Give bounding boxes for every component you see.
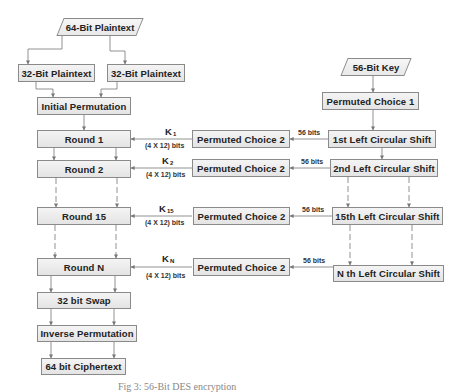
permuted-choice-2-2: Permuted Choice 2 [192,159,290,177]
left-circular-shift-n: N th Left Circular Shift [333,265,444,282]
swap-32-bit: 32 bit Swap [37,292,131,309]
round-1: Round 1 [37,130,131,148]
left-circular-shift-1: 1st Left Circular Shift [328,130,436,148]
subkey-k1-label: K1 [165,126,176,137]
inverse-permutation: Inverse Permutation [37,325,137,342]
bits-56-label-n: 56 bits [303,257,325,264]
subkey-k1-size: (4 X 12) bits [145,142,184,149]
plaintext-32-right: 32-Bit Plaintext [107,64,185,82]
permuted-choice-2-15: Permuted Choice 2 [193,207,290,225]
subkey-k15-size: (4 X 12) bits [145,219,184,226]
round-15: Round 15 [37,207,131,225]
left-circular-shift-2: 2nd Left Circular Shift [330,159,438,177]
permuted-choice-2-n: Permuted Choice 2 [193,258,290,276]
subkey-kn-size: (4 X 12) bits [146,272,185,279]
bits-56-label-2: 56 bits [301,158,323,165]
permuted-choice-1: Permuted Choice 1 [322,92,419,110]
subkey-k2-label: K2 [162,155,173,166]
round-n: Round N [37,258,131,276]
bits-56-label-15: 56 bits [302,206,324,213]
plaintext-64-label: 64-Bit Plaintext [66,22,135,33]
key-56-label: 56-Bit Key [353,62,399,73]
subkey-k15-label: K15 [159,203,174,214]
initial-permutation: Initial Permutation [37,97,131,115]
subkey-k2-size: (4 X 12) bits [146,171,185,178]
round-2: Round 2 [37,160,131,178]
key-56-input: 56-Bit Key [344,58,408,76]
plaintext-64-input: 64-Bit Plaintext [60,18,140,36]
permuted-choice-2-1: Permuted Choice 2 [192,130,290,148]
plaintext-32-left: 32-Bit Plaintext [18,64,95,82]
subkey-kn-label: KN [162,253,174,264]
left-circular-shift-15: 15th Left Circular Shift [332,207,443,225]
figure-caption: Fig 3: 56-Bit DES encryption [118,381,236,392]
ciphertext-64-output: 64 bit Ciphertext [41,358,126,375]
bits-56-label-1: 56 bits [298,129,320,136]
